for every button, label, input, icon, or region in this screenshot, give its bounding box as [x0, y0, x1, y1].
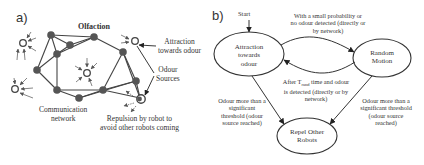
transition-label-line: After Trand time and odour [268, 78, 364, 88]
transition-label-line: by network) [278, 27, 378, 34]
odour-sources-line2: Sources [156, 75, 180, 84]
robots [33, 31, 140, 102]
odour-source [121, 35, 138, 44]
panel-a-olfaction-network: a) Olfaction [0, 0, 212, 165]
state-random-motion: Random Motion [353, 49, 411, 66]
attraction-label: Attraction towards odour [158, 38, 201, 56]
transition-label-line: significant threshold [348, 104, 424, 111]
transition-label-line: significant [212, 104, 272, 111]
transition-label-line: (odour source [348, 112, 424, 119]
state-random-line1: Random [353, 49, 411, 57]
transition-label-line: With a small probability or [278, 12, 378, 19]
state-repel-robots: Repel Other Robots [277, 128, 337, 145]
start-label: Start [238, 10, 250, 18]
transition-random-to-repel: Odour more than a significant threshold … [348, 97, 424, 127]
robot-at-source [124, 91, 145, 112]
attraction-label-line2: towards odour [158, 47, 201, 56]
transition-label-line: Odour more than a [348, 97, 424, 104]
transition-label-line: reached) [348, 119, 424, 126]
transition-text: time and odour [309, 78, 349, 85]
network-label-line2: network [39, 115, 87, 124]
repulsion-label-line2: avoid other robots coming [100, 124, 179, 133]
communication-edges [37, 35, 140, 98]
transition-label-line: no odour detected (directly or [278, 19, 378, 26]
communication-network-label: Communication network [39, 106, 87, 124]
transition-attraction-to-random: With a small probability or no odour det… [278, 12, 378, 34]
odour-source [12, 78, 33, 98]
state-attraction: Attraction towards odour [216, 43, 282, 68]
panel-b-state-machine: b) Start Attraction towards odour [212, 0, 424, 165]
transition-label-line: threshold (odour [212, 112, 272, 119]
repulsion-label: Repulsion by robot to avoid other robots… [100, 115, 179, 133]
transition-label-line: Odour more than a [212, 97, 272, 104]
odour-source [17, 32, 36, 60]
transition-attraction-to-repel: Odour more than a significant threshold … [212, 97, 272, 127]
state-random-line2: Motion [353, 57, 411, 65]
state-repel-line2: Robots [277, 136, 337, 144]
t-symbol: After T [283, 78, 302, 85]
transition-label-line: source reached) [212, 119, 272, 126]
state-attraction-line3: odour [216, 60, 282, 68]
state-repel-line1: Repel Other [277, 128, 337, 136]
transition-label-line: is detected (directly or by [268, 88, 364, 95]
state-attraction-line2: towards [216, 51, 282, 59]
odour-source [75, 58, 97, 86]
state-attraction-line1: Attraction [216, 43, 282, 51]
odour-sources-label: Odour Sources [156, 66, 180, 84]
network-graph [0, 0, 212, 165]
